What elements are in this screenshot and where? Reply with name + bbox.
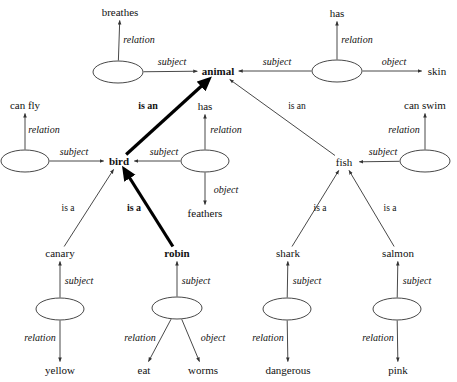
- lbl-subject-canfly: subject: [60, 147, 88, 157]
- edge: [397, 321, 398, 362]
- concept-node-animal: animal: [202, 66, 234, 77]
- relation-node-ellipse: [93, 61, 143, 83]
- lbl-subject-canswim: subject: [369, 147, 397, 157]
- concept-node-has_top: has: [330, 8, 345, 19]
- lbl-isa-robin: is a: [127, 203, 141, 213]
- relation-node-ellipse: [373, 298, 421, 320]
- edge: [118, 21, 119, 61]
- concept-node-bird: bird: [109, 156, 129, 167]
- lbl-relation-danger: relation: [252, 333, 283, 343]
- lbl-object-skin: object: [382, 57, 406, 67]
- lbl-subject-canary: subject: [65, 276, 93, 286]
- concept-node-feathers: feathers: [188, 208, 223, 219]
- relation-node-ellipse: [1, 150, 49, 172]
- lbl-subject-robin: subject: [182, 276, 210, 286]
- edge: [287, 321, 288, 362]
- lbl-subject-shark: subject: [293, 276, 321, 286]
- concept-node-shark: shark: [276, 248, 300, 259]
- lbl-relation-canfly: relation: [28, 125, 59, 135]
- relation-node-ellipse: [263, 298, 311, 320]
- edge: [143, 71, 197, 72]
- concept-node-has_mid: has: [198, 101, 213, 112]
- concept-node-skin: skin: [428, 66, 446, 77]
- lbl-subject-feathers: subject: [150, 147, 178, 157]
- lbl-isan-fish: is an: [288, 101, 306, 111]
- concept-node-worms: worms: [188, 365, 218, 376]
- edge: [182, 319, 200, 361]
- lbl-subject-breathes: subject: [158, 57, 186, 67]
- lbl-relation-yellow: relation: [24, 333, 55, 343]
- lbl-relation-canswim: relation: [388, 125, 419, 135]
- lbl-relation-eat: relation: [124, 333, 155, 343]
- lbl-isa-salmon: is a: [384, 203, 397, 213]
- concept-node-breathes: breathes: [102, 7, 139, 18]
- lbl-isa-canary: is a: [62, 203, 75, 213]
- relation-node-ellipse: [181, 150, 229, 172]
- lbl-relation-hasskin: relation: [341, 35, 372, 45]
- concept-node-pink: pink: [388, 365, 408, 376]
- lbl-relation-breathes: relation: [123, 35, 154, 45]
- concept-node-salmon: salmon: [382, 248, 414, 259]
- lbl-relation-feathers: relation: [210, 125, 241, 135]
- lbl-subject-hasskin: subject: [263, 57, 291, 67]
- edge: [397, 262, 398, 298]
- semantic-network-diagram: breatheshasanimalskincan flyhascan swimb…: [0, 0, 457, 382]
- lbl-isa-shark: is a: [314, 203, 327, 213]
- lbl-object-worms: object: [201, 333, 225, 343]
- concept-node-dangerous: dangerous: [265, 365, 310, 376]
- lbl-isan-bird: is an: [138, 101, 158, 111]
- edge: [287, 262, 288, 298]
- lbl-subject-salmon: subject: [403, 276, 431, 286]
- concept-node-yellow: yellow: [45, 365, 75, 376]
- lbl-object-feathers: object: [214, 185, 238, 195]
- concept-node-robin: robin: [164, 248, 189, 259]
- relation-node-ellipse: [312, 60, 362, 82]
- relation-node-ellipse: [400, 150, 450, 172]
- edge: [230, 80, 335, 156]
- concept-node-eat: eat: [138, 365, 151, 376]
- lbl-relation-pink: relation: [362, 333, 393, 343]
- edge: [359, 161, 399, 162]
- relation-node-ellipse: [36, 298, 84, 320]
- relation-node-ellipse: [152, 297, 202, 319]
- edge: [126, 80, 208, 155]
- concept-node-canary: canary: [45, 248, 74, 259]
- concept-node-canfly: can fly: [10, 100, 40, 111]
- concept-node-fish: fish: [336, 157, 353, 168]
- concept-node-canswim: can swim: [404, 100, 446, 111]
